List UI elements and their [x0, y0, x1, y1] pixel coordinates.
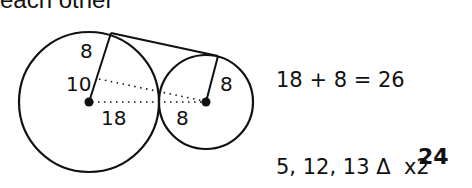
final-answer: 24: [418, 144, 449, 169]
large-center-point: [85, 98, 94, 107]
work-line-2: 5, 12, 13 Δ x2: [276, 153, 430, 182]
label-center-distance: 18: [101, 108, 126, 128]
label-small-radius-bottom: 8: [176, 108, 189, 128]
label-small-radius-top: 8: [220, 74, 233, 94]
small-radius-line: [206, 56, 218, 102]
small-center-point: [202, 98, 211, 107]
offset-dotted-line: [99, 79, 204, 101]
label-large-radius: 8: [80, 41, 93, 61]
label-large-offset: 10: [66, 74, 91, 94]
work-line-1: 18 + 8 = 26: [276, 66, 430, 95]
worked-solution: 18 + 8 = 26 5, 12, 13 Δ x2 10, 24, 26 8 …: [276, 8, 430, 188]
